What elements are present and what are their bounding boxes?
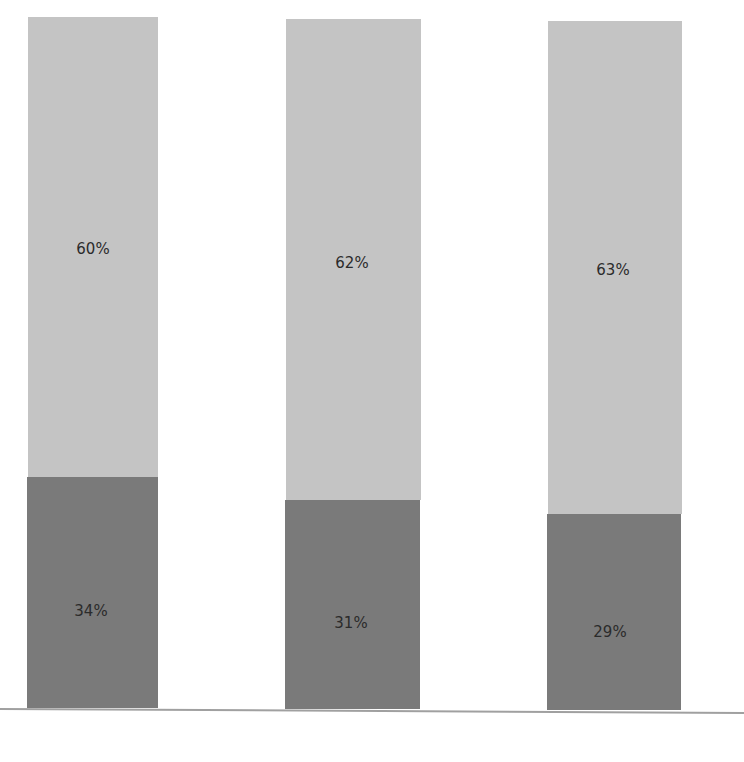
bar-1-bottom-value-label: 34%: [74, 602, 107, 620]
bar-3-bottom-value-label: 29%: [593, 623, 626, 641]
bar-2-bottom-value-label: 31%: [334, 614, 367, 632]
bar-3-bottom-segment: [547, 514, 681, 710]
bar-2-top-value-label: 62%: [335, 254, 368, 272]
bar-2-bottom-segment: [285, 500, 420, 709]
bar-3-top-value-label: 63%: [596, 261, 629, 279]
bar-1-bottom-segment: [27, 477, 158, 708]
bar-1-top-value-label: 60%: [76, 240, 109, 258]
